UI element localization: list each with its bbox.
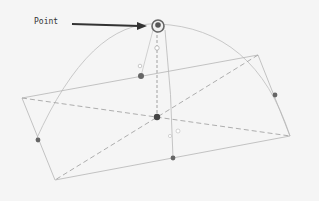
top-edge-point[interactable]: [138, 73, 144, 79]
vertical-line-left: [141, 30, 153, 76]
geometry-diagram: [0, 0, 319, 201]
diagram-canvas: Point: [0, 0, 319, 201]
center-point[interactable]: [154, 114, 160, 120]
right-edge-point[interactable]: [273, 93, 278, 98]
open-point: [176, 129, 180, 133]
curve-through-top: [165, 30, 173, 158]
open-point: [168, 134, 171, 137]
open-point: [138, 64, 142, 68]
bottom-edge-point[interactable]: [171, 156, 176, 161]
annotation-arrow-head: [137, 22, 147, 30]
annotation-arrow-line: [72, 24, 140, 26]
left-edge-point[interactable]: [36, 138, 41, 143]
top-point[interactable]: [155, 22, 161, 28]
open-point: [155, 46, 159, 50]
point-label: Point: [34, 17, 58, 26]
circumscribed-arc: [36, 24, 290, 140]
